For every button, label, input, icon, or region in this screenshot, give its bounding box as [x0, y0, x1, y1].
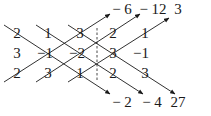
- cell-r1c3: 3: [76, 26, 84, 41]
- cell-r2c1: 3: [13, 46, 21, 61]
- cell-r2c2: −1: [37, 46, 53, 61]
- cell-r2c3: −2: [69, 46, 85, 61]
- cell-r3c2: 3: [44, 66, 52, 81]
- top-product-2: − 12: [139, 2, 166, 17]
- cell-r3c5: 3: [141, 66, 149, 81]
- cell-r1c1: 2: [13, 26, 21, 41]
- cell-r1c5: 1: [141, 26, 149, 41]
- bottom-product-2: − 4: [142, 95, 162, 110]
- down-diagonals: [4, 25, 175, 94]
- top-product-3: 3: [174, 2, 182, 17]
- cell-r2c4: 3: [109, 46, 117, 61]
- bottom-product-1: − 2: [112, 95, 132, 110]
- cell-r3c3: 1: [76, 66, 84, 81]
- cell-r1c2: 1: [44, 26, 52, 41]
- cell-r1c4: 2: [109, 26, 117, 41]
- bottom-product-3: 27: [171, 95, 186, 110]
- cell-r2c5: −1: [133, 46, 149, 61]
- cell-r3c1: 2: [13, 66, 21, 81]
- top-product-1: − 6: [112, 2, 132, 17]
- cell-r3c4: 2: [109, 66, 117, 81]
